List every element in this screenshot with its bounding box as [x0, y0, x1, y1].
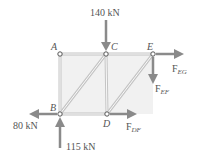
- joint-d: [105, 112, 109, 116]
- label-fdf: FDF: [126, 121, 142, 134]
- joint-e: [151, 52, 155, 56]
- label-a: A: [50, 41, 58, 52]
- label-e: E: [146, 41, 153, 52]
- label-115kn: 115 kN: [66, 141, 95, 152]
- truss-diagram: A C E B D 140 kN 80 kN 115 kN FEG FEF FD…: [0, 0, 200, 158]
- label-feg: FEG: [172, 63, 187, 76]
- label-b: B: [50, 102, 56, 113]
- label-140kn: 140 kN: [90, 7, 120, 18]
- label-d: D: [102, 118, 111, 129]
- joint-a: [58, 52, 62, 56]
- truss-svg: A C E B D 140 kN 80 kN 115 kN FEG FEF FD…: [0, 0, 200, 158]
- label-fef: FEF: [155, 83, 170, 96]
- label-c: C: [111, 41, 118, 52]
- joint-b: [58, 112, 62, 116]
- label-80kn: 80 kN: [13, 120, 38, 131]
- joint-c: [104, 52, 108, 56]
